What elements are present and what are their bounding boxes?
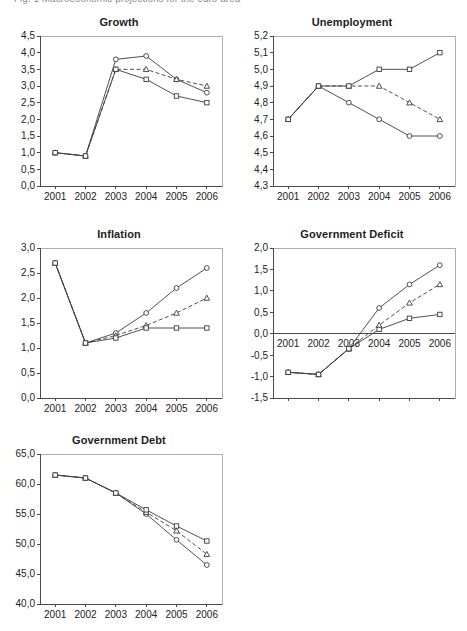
data-point-scenario-square xyxy=(286,117,290,121)
x-tick-label: 2005 xyxy=(398,191,421,202)
y-tick-label: 60,0 xyxy=(16,478,36,489)
data-point-scenario-square xyxy=(377,327,381,331)
x-tick-label: 2006 xyxy=(429,338,452,349)
data-point-scenario-circle xyxy=(204,266,209,271)
data-point-scenario-square xyxy=(114,336,118,340)
data-point-scenario-square xyxy=(83,341,87,345)
data-point-scenario-circle xyxy=(144,311,149,316)
data-point-scenario-square xyxy=(438,50,442,54)
series-line-scenario-circle xyxy=(55,475,207,565)
x-tick-label: 2001 xyxy=(277,338,300,349)
x-tick-label: 2001 xyxy=(44,191,67,202)
data-point-scenario-square xyxy=(316,84,320,88)
series-line-scenario-circle xyxy=(288,265,440,374)
data-point-scenario-triangle xyxy=(407,300,413,305)
x-tick-label: 2002 xyxy=(307,338,330,349)
chart-svg: 40,045,050,055,060,065,02001200220032004… xyxy=(10,448,228,630)
data-point-scenario-square xyxy=(114,491,118,495)
y-tick-label: 4,4 xyxy=(254,164,268,175)
x-tick-label: 2003 xyxy=(105,191,128,202)
y-tick-label: 0,0 xyxy=(254,328,268,339)
y-tick-label: 5,1 xyxy=(254,47,268,58)
y-tick-label: 0,5 xyxy=(254,307,268,318)
plot-frame xyxy=(273,248,455,398)
y-tick-label: 0,0 xyxy=(21,392,35,403)
figure-page: Fig. 1 Macroeconomic projections for the… xyxy=(0,0,467,631)
y-tick-label: 1,5 xyxy=(21,130,35,141)
data-point-scenario-circle xyxy=(437,263,442,268)
plot-area-government-debt: 40,045,050,055,060,065,02001200220032004… xyxy=(10,448,228,630)
data-point-scenario-triangle xyxy=(437,117,443,122)
x-tick-label: 2001 xyxy=(44,403,67,414)
data-point-scenario-square xyxy=(53,150,57,154)
chart-svg: 0,00,51,01,52,02,53,03,54,04,52001200220… xyxy=(10,30,228,212)
data-point-scenario-triangle xyxy=(174,528,180,533)
y-tick-label: 40,0 xyxy=(16,598,36,609)
plot-frame xyxy=(40,36,222,186)
data-point-scenario-triangle xyxy=(407,100,413,105)
y-tick-label: 5,0 xyxy=(254,64,268,75)
data-point-scenario-square xyxy=(286,370,290,374)
data-point-scenario-square xyxy=(316,372,320,376)
data-point-scenario-circle xyxy=(174,286,179,291)
data-point-scenario-circle xyxy=(144,54,149,59)
y-tick-label: 50,0 xyxy=(16,538,36,549)
data-point-scenario-square xyxy=(114,67,118,71)
data-point-scenario-square xyxy=(53,473,57,477)
y-tick-label: 55,0 xyxy=(16,508,36,519)
y-tick-label: 5,2 xyxy=(254,30,268,41)
data-point-scenario-square xyxy=(205,100,209,104)
x-tick-label: 2002 xyxy=(74,609,97,620)
y-tick-label: 1,5 xyxy=(254,264,268,275)
data-point-scenario-square xyxy=(205,539,209,543)
y-tick-label: 1,0 xyxy=(254,285,268,296)
y-tick-label: 4,5 xyxy=(21,30,35,41)
series-line-scenario-triangle xyxy=(55,263,207,343)
y-tick-label: 4,7 xyxy=(254,114,268,125)
x-tick-label: 2004 xyxy=(135,609,158,620)
data-point-scenario-square xyxy=(174,524,178,528)
y-tick-label: 3,5 xyxy=(21,64,35,75)
data-point-scenario-square xyxy=(377,67,381,71)
data-point-scenario-circle xyxy=(377,117,382,122)
data-point-scenario-square xyxy=(438,312,442,316)
chart-title-growth: Growth xyxy=(10,16,228,28)
data-point-scenario-square xyxy=(174,326,178,330)
x-tick-label: 2006 xyxy=(196,609,219,620)
y-tick-label: 3,0 xyxy=(21,80,35,91)
chart-panel-growth: Growth 0,00,51,01,52,02,53,03,54,04,5200… xyxy=(10,16,228,212)
series-line-scenario-circle xyxy=(288,86,440,136)
y-tick-label: 2,5 xyxy=(21,267,35,278)
x-tick-label: 2006 xyxy=(196,191,219,202)
x-tick-label: 2004 xyxy=(368,338,391,349)
series-line-scenario-circle xyxy=(55,263,207,343)
y-tick-label: 45,0 xyxy=(16,568,36,579)
x-tick-label: 2002 xyxy=(74,191,97,202)
plot-area-government-deficit: -1,5-1,0-0,50,00,51,01,52,02001200220032… xyxy=(243,242,461,424)
y-tick-label: -1,0 xyxy=(251,371,269,382)
data-point-scenario-triangle xyxy=(376,322,382,327)
chart-title-government-debt: Government Debt xyxy=(10,434,228,446)
y-tick-label: 2,0 xyxy=(21,114,35,125)
chart-panel-inflation: Inflation 0,00,51,01,52,02,53,0200120022… xyxy=(10,228,228,424)
y-tick-label: 0,5 xyxy=(21,367,35,378)
data-point-scenario-triangle xyxy=(376,83,382,88)
chart-svg: 4,34,44,54,64,74,84,95,05,15,22001200220… xyxy=(243,30,461,212)
x-tick-label: 2005 xyxy=(165,403,188,414)
cropped-header-label: Fig. 1 Macroeconomic projections for the… xyxy=(14,0,240,4)
plot-area-unemployment: 4,34,44,54,64,74,84,95,05,15,22001200220… xyxy=(243,30,461,212)
x-tick-label: 2005 xyxy=(165,609,188,620)
x-tick-label: 2004 xyxy=(368,191,391,202)
cropped-header-text: Fig. 1 Macroeconomic projections for the… xyxy=(0,0,467,9)
data-point-scenario-circle xyxy=(407,282,412,287)
chart-panel-government-debt: Government Debt 40,045,050,055,060,065,0… xyxy=(10,434,228,630)
series-line-scenario-square xyxy=(288,53,440,120)
data-point-scenario-triangle xyxy=(204,295,210,300)
y-tick-label: 1,0 xyxy=(21,342,35,353)
chart-title-inflation: Inflation xyxy=(10,228,228,240)
data-point-scenario-triangle xyxy=(174,310,180,315)
y-tick-label: 65,0 xyxy=(16,448,36,459)
chart-title-government-deficit: Government Deficit xyxy=(243,228,461,240)
x-tick-label: 2006 xyxy=(429,191,452,202)
x-tick-label: 2003 xyxy=(338,191,361,202)
